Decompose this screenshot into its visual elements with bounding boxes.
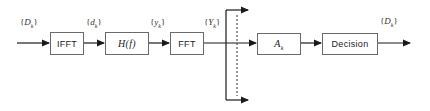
- channel-label: H(f): [118, 38, 136, 49]
- ifft-label: IFFT: [57, 39, 77, 49]
- fft-label: FFT: [178, 39, 195, 49]
- decision-block: Decision: [322, 33, 378, 55]
- channel-block: H(f): [105, 32, 149, 55]
- output-signal-label: {Dk}: [380, 16, 398, 28]
- ifft-output-signal-label: {dk}: [86, 17, 102, 29]
- fft-output-signal-label: {Yk}: [204, 17, 220, 29]
- input-signal-label: {Dk}: [20, 17, 38, 29]
- ifft-block: IFFT: [50, 32, 84, 55]
- decision-label: Decision: [332, 39, 369, 49]
- fft-block: FFT: [170, 32, 204, 55]
- equalizer-block: Ak: [257, 33, 301, 55]
- ofdm-block-diagram: IFFT H(f) FFT Ak Decision {Dk} {dk} {yk}…: [0, 0, 430, 111]
- channel-output-signal-label: {yk}: [150, 17, 165, 29]
- equalizer-label: Ak: [274, 38, 283, 51]
